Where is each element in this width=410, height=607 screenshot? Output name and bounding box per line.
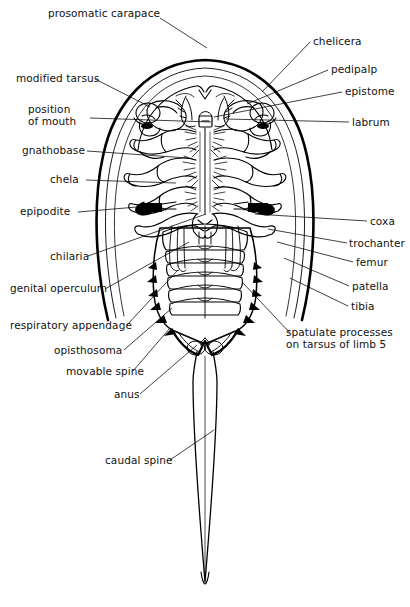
leader-trochanter — [268, 229, 347, 243]
label-femur: femur — [356, 257, 388, 269]
label-chilaria: chilaria — [50, 251, 89, 263]
label-anus: anus — [114, 389, 140, 401]
leader-chelicera — [262, 42, 310, 92]
label-modified-tarsus: modified tarsus — [16, 73, 99, 85]
ridge-arc-right — [216, 93, 234, 97]
leader-femur — [277, 242, 353, 262]
walking-leg-left-2 — [130, 129, 196, 158]
median-notch — [199, 90, 211, 99]
label-prosomatic-carapace: prosomatic carapace — [48, 8, 160, 20]
label-tibia: tibia — [351, 301, 375, 313]
label-movable-spine: movable spine — [66, 366, 144, 378]
leader-prosomatic-carapace — [160, 18, 207, 48]
label-chela: chela — [50, 174, 79, 186]
label-gnathobase: gnathobase — [22, 145, 85, 157]
gnathobase-bristles — [183, 126, 227, 214]
movable-spines-right — [234, 262, 263, 336]
label-opisthosoma: opisthosoma — [54, 345, 122, 357]
label-coxa: coxa — [370, 216, 395, 228]
walking-leg-right-2 — [214, 129, 280, 158]
leader-labrum — [226, 119, 349, 122]
eye-spot-right — [257, 123, 269, 129]
label-chelicera: chelicera — [313, 36, 362, 48]
leader-genital-operculum — [105, 242, 189, 289]
leader-caudal-spine — [170, 430, 214, 460]
walking-leg-right-5 — [212, 202, 275, 237]
eye-spot-left — [141, 123, 153, 129]
label-epipodite: epipodite — [20, 206, 70, 218]
walking-leg-left-5 — [135, 202, 198, 237]
label-epistome: epistome — [345, 86, 395, 98]
label-spatulate-processes: spatulate processes on tarsus of limb 5 — [286, 327, 393, 350]
label-caudal-spine: caudal spine — [105, 455, 173, 467]
leader-position-of-mouth — [90, 118, 211, 122]
ridge-arc-left — [176, 93, 194, 97]
leader-pedipalp — [247, 70, 328, 104]
label-position-of-mouth: position of mouth — [28, 104, 76, 127]
label-patella: patella — [352, 281, 389, 293]
label-trochanter: trochanter — [349, 238, 405, 250]
label-labrum: labrum — [352, 117, 390, 129]
label-respiratory-appendage: respiratory appendage — [10, 320, 132, 332]
leader-anus — [140, 345, 197, 394]
label-genital-operculum: genital operculum — [10, 283, 107, 295]
leader-patella — [284, 258, 349, 286]
label-pedipalp: pedipalp — [331, 64, 377, 76]
epistome — [199, 112, 212, 117]
leader-coxa — [255, 214, 367, 221]
